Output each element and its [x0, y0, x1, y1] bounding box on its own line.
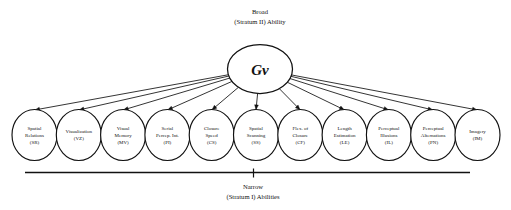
hierarchy-diagram: Broad (Stratum II) Ability Gv SpatialRel… [0, 0, 511, 210]
narrow-stratum-caption: Narrow (Stratum I) Abilities [226, 183, 280, 201]
ability-node-1[interactable]: SpatialRelations(SR) [12, 110, 57, 161]
link-gv-to-node-10 [291, 76, 433, 110]
broad-caption-line2: (Stratum II) Ability [234, 18, 286, 26]
ability-node-label-line1: Perceptual [378, 126, 400, 131]
ability-node-label-line1: Closure [204, 126, 220, 131]
ability-node-6[interactable]: SpatialScanning(SS) [234, 110, 279, 161]
ability-node-label-line1: Length [338, 126, 353, 131]
link-gv-to-node-9 [290, 79, 388, 110]
ability-node-label-line1: Serial [162, 126, 174, 131]
ability-node-5[interactable]: ClosureSpeed(CS) [189, 110, 234, 161]
ability-node-ellipse [455, 110, 500, 161]
ability-node-8[interactable]: LengthEstimation(LE) [322, 110, 367, 161]
root-node-label: Gv [251, 62, 269, 78]
narrow-caption-line1: Narrow [243, 183, 263, 190]
ability-node-11[interactable]: Imagery(IM) [455, 110, 500, 161]
ability-node-label-line1: Flex. of [293, 126, 309, 131]
ability-node-label-line2: Scanning [247, 133, 266, 138]
narrow-ability-nodes: SpatialRelations(SR)Visualization(VZ)Vis… [12, 110, 500, 161]
narrow-caption-line2: (Stratum I) Abilities [226, 193, 280, 201]
ability-node-label-line1: Perceptual [423, 126, 445, 131]
diagram-canvas: Broad (Stratum II) Ability Gv SpatialRel… [0, 0, 511, 210]
ability-node-ellipse [56, 110, 101, 161]
ability-node-label-line2: Relations [25, 133, 44, 138]
broad-stratum-caption: Broad (Stratum II) Ability [234, 8, 286, 26]
root-node-gv[interactable]: Gv [228, 45, 293, 94]
narrow-axis [25, 169, 470, 178]
ability-node-label-line3: (MV) [117, 140, 129, 145]
ability-node-7[interactable]: Flex. ofClosure(CF) [278, 110, 323, 161]
ability-node-label-line2: Speed [206, 133, 219, 138]
ability-node-label-line3: (PI) [164, 140, 172, 145]
ability-node-label-line1: Imagery [469, 129, 486, 134]
ability-node-label-line2: (IM) [473, 136, 483, 141]
ability-node-3[interactable]: VisualMemory(MV) [101, 110, 146, 161]
ability-node-label-line3: (LE) [340, 140, 350, 145]
ability-node-9[interactable]: PerceptualIllusions(IL) [366, 110, 411, 161]
ability-node-label-line2: (VZ) [74, 136, 84, 141]
ability-node-label-line3: (PN) [428, 140, 438, 145]
ability-node-label-line1: Visual [117, 126, 130, 131]
broad-caption-line1: Broad [252, 8, 269, 15]
ability-node-10[interactable]: PerceptualAlternations(PN) [411, 110, 456, 161]
ability-node-label-line1: Spatial [249, 126, 263, 131]
ability-node-label-line3: (CS) [207, 140, 217, 145]
ability-node-label-line2: Estimation [334, 133, 356, 138]
ability-node-label-line1: Visualization [66, 129, 93, 134]
ability-node-label-line2: Closure [293, 133, 309, 138]
link-gv-to-node-11 [292, 75, 477, 110]
ability-node-label-line3: (CF) [296, 140, 306, 145]
ability-node-label-line2: Memory [114, 133, 132, 138]
ability-node-4[interactable]: SerialPercep. Int.(PI) [145, 110, 190, 161]
ability-node-label-line1: Spatial [28, 126, 42, 131]
ability-node-label-line3: (SR) [30, 140, 40, 145]
ability-node-label-line3: (SS) [252, 140, 261, 145]
link-gv-to-node-5 [212, 87, 238, 109]
link-gv-to-node-3 [124, 78, 230, 110]
ability-node-2[interactable]: Visualization(VZ) [56, 110, 101, 161]
link-gv-to-node-4 [168, 81, 232, 109]
ability-node-label-line2: Percep. Int. [156, 133, 179, 138]
ability-node-label-line2: Illusions [380, 133, 397, 138]
ability-node-label-line2: Alternations [421, 133, 446, 138]
arrowhead-node-6 [255, 105, 259, 110]
link-gv-to-node-1 [35, 75, 228, 110]
ability-node-label-line3: (IL) [385, 140, 393, 145]
